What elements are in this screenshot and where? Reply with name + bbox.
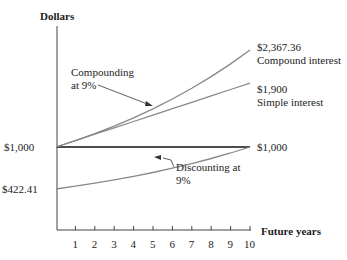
x-tick-label: 7: [189, 238, 195, 250]
x-tick-label: 9: [228, 238, 234, 250]
compound-name: Compound interest: [257, 54, 341, 66]
x-tick-label: 6: [169, 238, 175, 250]
x-tick-label: 4: [131, 238, 137, 250]
x-tick-label: 1: [72, 238, 78, 250]
x-tick-label: 8: [208, 238, 214, 250]
compound-line: [56, 50, 250, 147]
y-label-1000: $1,000: [4, 141, 34, 153]
simple-name: Simple interest: [257, 96, 323, 108]
annotation-compounding: Compounding: [71, 66, 134, 78]
x-ticks: [75, 226, 250, 230]
end-label-1000: $1,000: [257, 141, 287, 153]
compound-value: $2,367.36: [257, 41, 301, 53]
y-label-422: $422.41: [2, 183, 38, 195]
compound-arrow: [98, 85, 150, 105]
simple-line: [56, 83, 250, 147]
annotation-compounding-rate: at 9%: [71, 79, 96, 91]
y-axis-label: Dollars: [40, 10, 74, 22]
annotation-discounting-rate: 9%: [176, 174, 191, 186]
x-tick-label: 10: [244, 238, 255, 250]
discount-arrow: [163, 158, 174, 167]
compound-arrowhead: [145, 101, 153, 106]
x-tick-label: 3: [111, 238, 117, 250]
chart-canvas: [0, 0, 347, 260]
x-axis-label: Future years: [261, 225, 321, 237]
annotation-discounting: Discounting at: [176, 161, 240, 173]
simple-value: $1,900: [257, 83, 287, 95]
discount-arrowhead: [154, 155, 161, 160]
x-tick-label: 2: [92, 238, 98, 250]
x-tick-label: 5: [150, 238, 156, 250]
